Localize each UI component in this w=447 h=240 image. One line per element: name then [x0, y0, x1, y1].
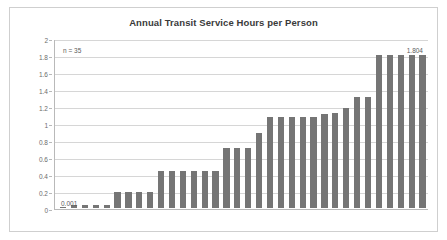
- plot-area: [54, 40, 428, 210]
- bar: [256, 133, 262, 208]
- y-axis-tick-mark: [49, 176, 52, 177]
- y-axis-tick-label: 1.2: [39, 105, 48, 112]
- y-axis-tick-label: 0: [44, 207, 48, 214]
- y-axis-tick-mark: [49, 142, 52, 143]
- bar: [147, 192, 153, 208]
- y-axis-labels: 21.81.61.41.210.80.60.40.20: [10, 40, 52, 210]
- bar: [169, 171, 175, 208]
- bar: [376, 55, 382, 208]
- bar: [234, 148, 240, 208]
- bar: [343, 108, 349, 208]
- bar: [278, 117, 284, 208]
- y-axis-tick-label: 1.4: [39, 88, 48, 95]
- bar: [82, 205, 88, 208]
- bar: [158, 171, 164, 208]
- bar: [419, 55, 425, 208]
- y-axis-tick-label: 0.6: [39, 156, 48, 163]
- bar: [136, 192, 142, 208]
- bar: [398, 55, 404, 208]
- y-axis-tick-mark: [49, 210, 52, 211]
- y-axis-tick-label: 0.2: [39, 190, 48, 197]
- bar: [300, 117, 306, 208]
- bar: [223, 148, 229, 208]
- bar: [202, 171, 208, 208]
- bar: [409, 55, 415, 208]
- y-axis-tick-mark: [49, 108, 52, 109]
- bar: [212, 171, 218, 208]
- chart-title: Annual Transit Service Hours per Person: [10, 17, 437, 28]
- y-axis-tick-mark: [49, 74, 52, 75]
- bar: [104, 205, 110, 208]
- chart-frame: Annual Transit Service Hours per Person …: [9, 7, 438, 232]
- y-axis-tick-mark: [49, 193, 52, 194]
- bar: [245, 148, 251, 208]
- y-axis-tick-mark: [49, 125, 52, 126]
- y-axis-tick-label: 0.4: [39, 173, 48, 180]
- y-axis-tick-mark: [49, 159, 52, 160]
- y-axis-tick-mark: [49, 91, 52, 92]
- bar: [354, 97, 360, 208]
- bar: [191, 171, 197, 208]
- y-axis-tick-label: 1.8: [39, 54, 48, 61]
- bar-series: [56, 40, 428, 208]
- bar: [365, 97, 371, 208]
- bar: [114, 192, 120, 208]
- bar: [267, 117, 273, 208]
- max-value-annotation: 1.804: [407, 47, 423, 54]
- bar: [180, 171, 186, 208]
- bar: [332, 113, 338, 208]
- y-axis-tick-label: 1.6: [39, 71, 48, 78]
- y-axis-tick-label: 1: [44, 122, 48, 129]
- screenshot-root: Annual Transit Service Hours per Person …: [0, 0, 447, 240]
- bar: [387, 55, 393, 208]
- bar: [289, 117, 295, 208]
- bar: [321, 114, 327, 208]
- bar: [125, 192, 131, 208]
- bar: [310, 117, 316, 208]
- y-axis-tick-label: 2: [44, 37, 48, 44]
- min-value-annotation: 0.001: [61, 200, 77, 207]
- y-axis-tick-label: 0.8: [39, 139, 48, 146]
- y-axis-tick-mark: [49, 57, 52, 58]
- bar: [93, 205, 99, 208]
- y-axis-tick-mark: [49, 40, 52, 41]
- sample-size-annotation: n = 35: [63, 47, 81, 54]
- bar: [60, 207, 66, 208]
